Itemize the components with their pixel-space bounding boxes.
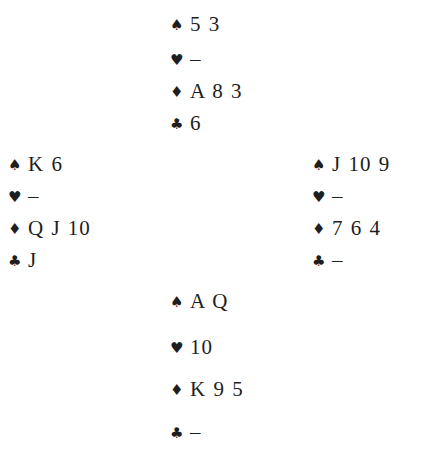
heart-icon: ♥ [170, 336, 190, 360]
spade-icon: ♠ [312, 153, 332, 177]
north-diamonds-cards: A 8 3 [190, 79, 243, 103]
spade-icon: ♠ [8, 153, 28, 177]
east-clubs-row: ♣– [312, 248, 344, 272]
club-icon: ♣ [170, 421, 190, 445]
west-hearts-row: ♥– [8, 184, 40, 208]
east-hearts-row: ♥– [312, 184, 344, 208]
north-spades-cards: 5 3 [190, 12, 220, 36]
east-clubs-cards: – [332, 248, 344, 272]
south-hearts-cards: 10 [190, 335, 213, 359]
south-spades-row: ♠A Q [170, 289, 228, 313]
north-hearts-cards: – [190, 47, 202, 71]
west-spades-cards: K 6 [28, 152, 63, 176]
heart-icon: ♥ [8, 185, 28, 209]
club-icon: ♣ [8, 249, 28, 273]
north-spades-row: ♠5 3 [170, 12, 220, 36]
diamond-icon: ♦ [8, 217, 28, 241]
west-spades-row: ♠K 6 [8, 152, 63, 176]
diamond-icon: ♦ [170, 80, 190, 104]
east-diamonds-row: ♦7 6 4 [312, 216, 381, 240]
east-hearts-cards: – [332, 184, 344, 208]
heart-icon: ♥ [170, 48, 190, 72]
south-clubs-cards: – [190, 420, 202, 444]
spade-icon: ♠ [170, 13, 190, 37]
south-hearts-row: ♥10 [170, 335, 213, 359]
west-clubs-cards: J [28, 248, 37, 272]
south-spades-cards: A Q [190, 289, 228, 313]
club-icon: ♣ [312, 249, 332, 273]
north-hearts-row: ♥– [170, 47, 202, 71]
diamond-icon: ♦ [312, 217, 332, 241]
north-diamonds-row: ♦A 8 3 [170, 79, 243, 103]
west-clubs-row: ♣J [8, 248, 37, 272]
heart-icon: ♥ [312, 185, 332, 209]
west-diamonds-row: ♦Q J 10 [8, 216, 91, 240]
north-clubs-row: ♣6 [170, 111, 202, 135]
north-clubs-cards: 6 [190, 111, 202, 135]
south-diamonds-cards: K 9 5 [190, 377, 244, 401]
east-diamonds-cards: 7 6 4 [332, 216, 381, 240]
south-clubs-row: ♣– [170, 420, 202, 444]
west-hearts-cards: – [28, 184, 40, 208]
spade-icon: ♠ [170, 290, 190, 314]
east-spades-row: ♠J 10 9 [312, 152, 390, 176]
south-diamonds-row: ♦K 9 5 [170, 377, 244, 401]
east-spades-cards: J 10 9 [332, 152, 390, 176]
club-icon: ♣ [170, 112, 190, 136]
diamond-icon: ♦ [170, 378, 190, 402]
west-diamonds-cards: Q J 10 [28, 216, 91, 240]
